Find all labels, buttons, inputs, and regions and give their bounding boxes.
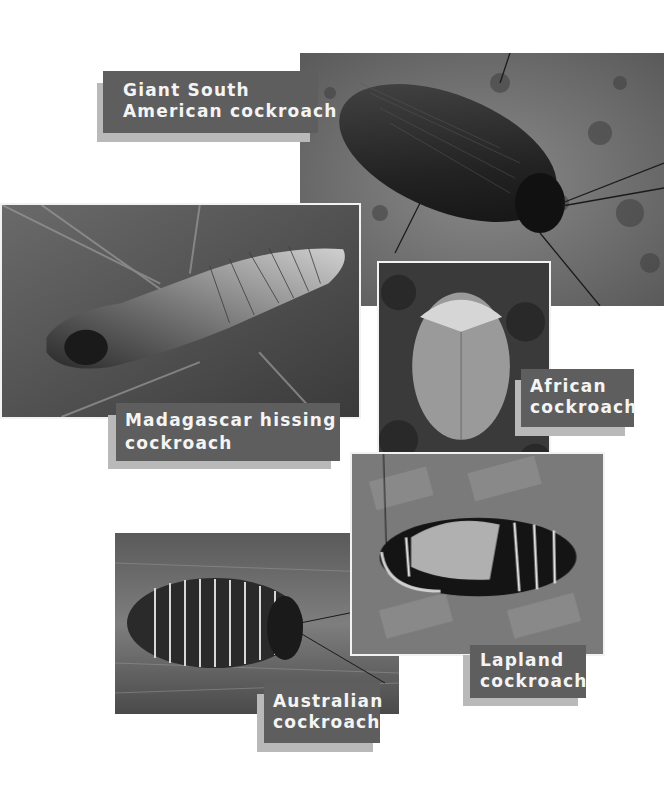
- madagascar-cockroach-image: [2, 205, 359, 417]
- label-line-1: Madagascar hissing: [125, 409, 340, 432]
- label-box: Madagascar hissing cockroach: [116, 403, 340, 461]
- lapland-cockroach-image: [352, 454, 603, 654]
- photo-madagascar-hissing-cockroach: [0, 203, 361, 419]
- label-line-1: Australian: [273, 691, 380, 712]
- label-line-2: American cockroach: [123, 101, 318, 122]
- label-line-1: Giant South: [123, 80, 318, 101]
- label-box: Lapland cockroach: [470, 645, 586, 698]
- label-line-2: cockroach: [125, 432, 340, 455]
- label-box: Giant South American cockroach: [103, 71, 318, 133]
- label-line-1: African: [530, 376, 634, 397]
- label-line-2: cockroach: [480, 671, 586, 692]
- label-line-1: Lapland: [480, 650, 586, 671]
- label-box: African cockroach: [521, 369, 634, 427]
- label-line-2: cockroach: [530, 397, 634, 418]
- label-line-2: cockroach: [273, 712, 380, 733]
- label-box: Australian cockroach: [264, 683, 380, 743]
- photo-lapland-cockroach: [350, 452, 605, 656]
